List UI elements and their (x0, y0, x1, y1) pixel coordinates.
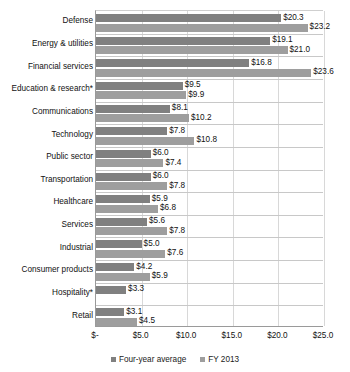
bar-value-label: $5.9 (152, 195, 168, 203)
bar-value-label: $3.1 (126, 308, 142, 316)
category-label: Energy & utilities (0, 39, 93, 48)
x-axis-tick-label: $5.0 (121, 331, 161, 340)
bar-value-label: $9.9 (188, 91, 204, 99)
category-label: Retail (0, 311, 93, 320)
bar-four-year-average (96, 286, 126, 294)
legend-item[interactable]: Four-year average (111, 355, 186, 364)
bar-four-year-average (96, 308, 124, 316)
x-axis-tick-label: $- (75, 331, 115, 340)
bar-four-year-average (96, 173, 151, 181)
bar-value-label: $7.6 (167, 249, 183, 257)
bar-value-label: $10.8 (196, 136, 217, 144)
legend-swatch-icon (111, 357, 116, 362)
bar-fy-2013 (96, 91, 186, 99)
category-separator (96, 215, 323, 216)
bar-value-label: $4.2 (136, 263, 152, 271)
bar-value-label: $6.0 (153, 172, 169, 180)
bar-fy-2013 (96, 250, 165, 258)
gridline (233, 11, 234, 326)
bar-four-year-average (96, 263, 134, 271)
category-label: Communications (0, 107, 93, 116)
bar-value-label: $7.8 (169, 127, 185, 135)
bar-fy-2013 (96, 227, 167, 235)
category-label: Technology (0, 130, 93, 139)
x-axis-tick-label: $25.0 (303, 331, 343, 340)
bar-four-year-average (96, 195, 150, 203)
bar-value-label: $10.2 (191, 114, 212, 122)
category-separator (96, 237, 323, 238)
bar-value-label: $20.3 (283, 14, 304, 22)
category-separator (96, 260, 323, 261)
bar-value-label: $7.8 (169, 227, 185, 235)
legend-label: Four-year average (119, 355, 186, 364)
category-separator (96, 192, 323, 193)
category-separator (96, 79, 323, 80)
bar-value-label: $19.1 (272, 36, 293, 44)
bar-value-label: $9.5 (185, 81, 201, 89)
plot-area (95, 10, 323, 327)
bar-value-label: $5.0 (144, 240, 160, 248)
category-separator (96, 56, 323, 57)
category-separator (96, 102, 323, 103)
bar-value-label: $16.8 (251, 59, 272, 67)
bar-value-label: $6.0 (153, 149, 169, 157)
legend-label: FY 2013 (208, 355, 239, 364)
category-label: Education & research* (0, 84, 93, 93)
category-separator (96, 305, 323, 306)
bar-four-year-average (96, 14, 281, 22)
gridline (278, 11, 279, 326)
x-axis-tick-label: $15.0 (212, 331, 252, 340)
bar-value-label: $5.9 (152, 272, 168, 280)
category-separator (96, 124, 323, 125)
bar-four-year-average (96, 218, 147, 226)
category-label: Defense (0, 16, 93, 25)
bar-fy-2013 (96, 205, 158, 213)
bar-four-year-average (96, 105, 170, 113)
gridline (324, 11, 325, 326)
bar-value-label: $6.8 (160, 204, 176, 212)
bar-fy-2013 (96, 318, 137, 326)
bar-fy-2013 (96, 273, 150, 281)
category-label: Services (0, 220, 93, 229)
bar-four-year-average (96, 240, 142, 248)
category-separator (96, 147, 323, 148)
category-separator (96, 170, 323, 171)
bar-fy-2013 (96, 137, 194, 145)
bar-value-label: $23.2 (310, 23, 331, 31)
category-label: Financial services (0, 62, 93, 71)
bar-value-label: $23.6 (313, 68, 334, 76)
bar-fy-2013 (96, 69, 311, 77)
bar-fy-2013 (96, 182, 167, 190)
category-label: Transportation (0, 175, 93, 184)
category-label: Public sector (0, 152, 93, 161)
legend-item[interactable]: FY 2013 (200, 355, 239, 364)
gridline (187, 11, 188, 326)
bar-fy-2013 (96, 159, 163, 167)
bar-value-label: $8.1 (172, 104, 188, 112)
bar-value-label: $5.6 (149, 217, 165, 225)
bar-value-label: $7.4 (165, 159, 181, 167)
x-axis-tick-label: $10.0 (166, 331, 206, 340)
chart-legend: Four-year averageFY 2013 (0, 355, 350, 364)
bar-value-label: $4.5 (139, 317, 155, 325)
bar-fy-2013 (96, 24, 308, 32)
bar-fy-2013 (96, 46, 288, 54)
bar-four-year-average (96, 37, 270, 45)
bar-four-year-average (96, 150, 151, 158)
bar-four-year-average (96, 59, 249, 67)
bar-value-label: $3.3 (128, 285, 144, 293)
category-label: Consumer products (0, 265, 93, 274)
bar-four-year-average (96, 82, 183, 90)
bar-fy-2013 (96, 114, 189, 122)
bar-chart: Defense$20.3$23.2Energy & utilities$19.1… (0, 0, 350, 372)
legend-swatch-icon (200, 357, 205, 362)
x-axis-tick-label: $20.0 (257, 331, 297, 340)
bar-value-label: $21.0 (290, 46, 311, 54)
category-label: Industrial (0, 243, 93, 252)
category-label: Healthcare (0, 197, 93, 206)
category-label: Hospitality* (0, 288, 93, 297)
bar-four-year-average (96, 127, 167, 135)
bar-value-label: $7.8 (169, 182, 185, 190)
